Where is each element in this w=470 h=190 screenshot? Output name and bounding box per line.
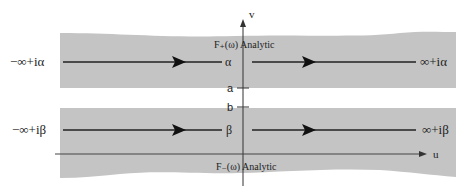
beta-mark: β: [226, 123, 232, 137]
bound-b-label: b: [227, 101, 233, 113]
contour-beta-left-label: −∞+iβ: [12, 122, 47, 137]
v-axis-arrow-icon: [240, 19, 246, 27]
bound-a-label: a: [227, 82, 234, 94]
lower-region-label: F₋(ω) Analytic: [216, 161, 277, 173]
v-axis-label: v: [249, 8, 255, 20]
contour-alpha-left-label: −∞+iα: [10, 54, 45, 69]
upper-region-label: F₊(ω) Analytic: [214, 39, 275, 51]
contour-beta-right-label: ∞+iβ: [422, 122, 449, 137]
alpha-mark: α: [225, 55, 232, 69]
contour-diagram: v u −∞+iα ∞+iα α F₊(ω) Analytic a b −∞+i…: [0, 0, 470, 190]
u-axis-label: u: [433, 148, 439, 160]
contour-alpha-right-label: ∞+iα: [420, 54, 447, 69]
